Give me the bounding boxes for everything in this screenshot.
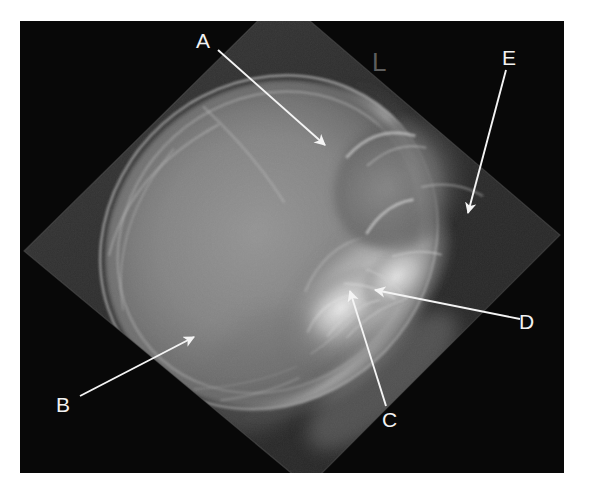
xray-viewing-frame: L: [20, 21, 564, 473]
annotation-label-e: E: [502, 47, 516, 68]
annotation-label-a: A: [196, 30, 210, 51]
arrow-C: [350, 291, 386, 406]
annotation-arrow-layer: [20, 21, 564, 473]
arrow-D: [375, 290, 520, 319]
annotation-label-b: B: [56, 394, 70, 415]
arrow-A: [218, 50, 325, 145]
arrow-E: [468, 70, 506, 213]
annotation-label-d: D: [519, 311, 534, 332]
arrow-B: [80, 337, 194, 396]
annotation-label-c: C: [382, 409, 397, 430]
left-side-marker: L: [372, 49, 386, 75]
radiograph-figure: L A B C D E: [0, 0, 590, 500]
